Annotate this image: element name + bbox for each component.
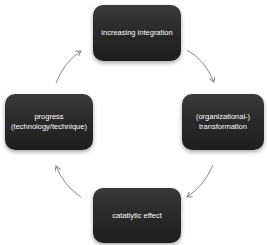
node-increasing-integration: increasing integration <box>93 5 181 61</box>
node-label: increasing integration <box>101 28 172 38</box>
node-label: catatlytic effect <box>112 211 161 221</box>
arrow-bottom-to-left <box>56 166 81 197</box>
node-catalytic-effect: catatlytic effect <box>93 188 181 243</box>
arrow-left-to-top <box>56 51 81 83</box>
arrow-right-to-bottom <box>187 165 213 197</box>
node-progress: progress (technology/technique) <box>5 94 93 150</box>
node-label: (organizational-) transformation <box>196 112 250 132</box>
node-organizational-transformation: (organizational-) transformation <box>182 94 264 150</box>
node-label: progress (technology/technique) <box>11 112 87 132</box>
arrow-top-to-right <box>187 50 214 82</box>
